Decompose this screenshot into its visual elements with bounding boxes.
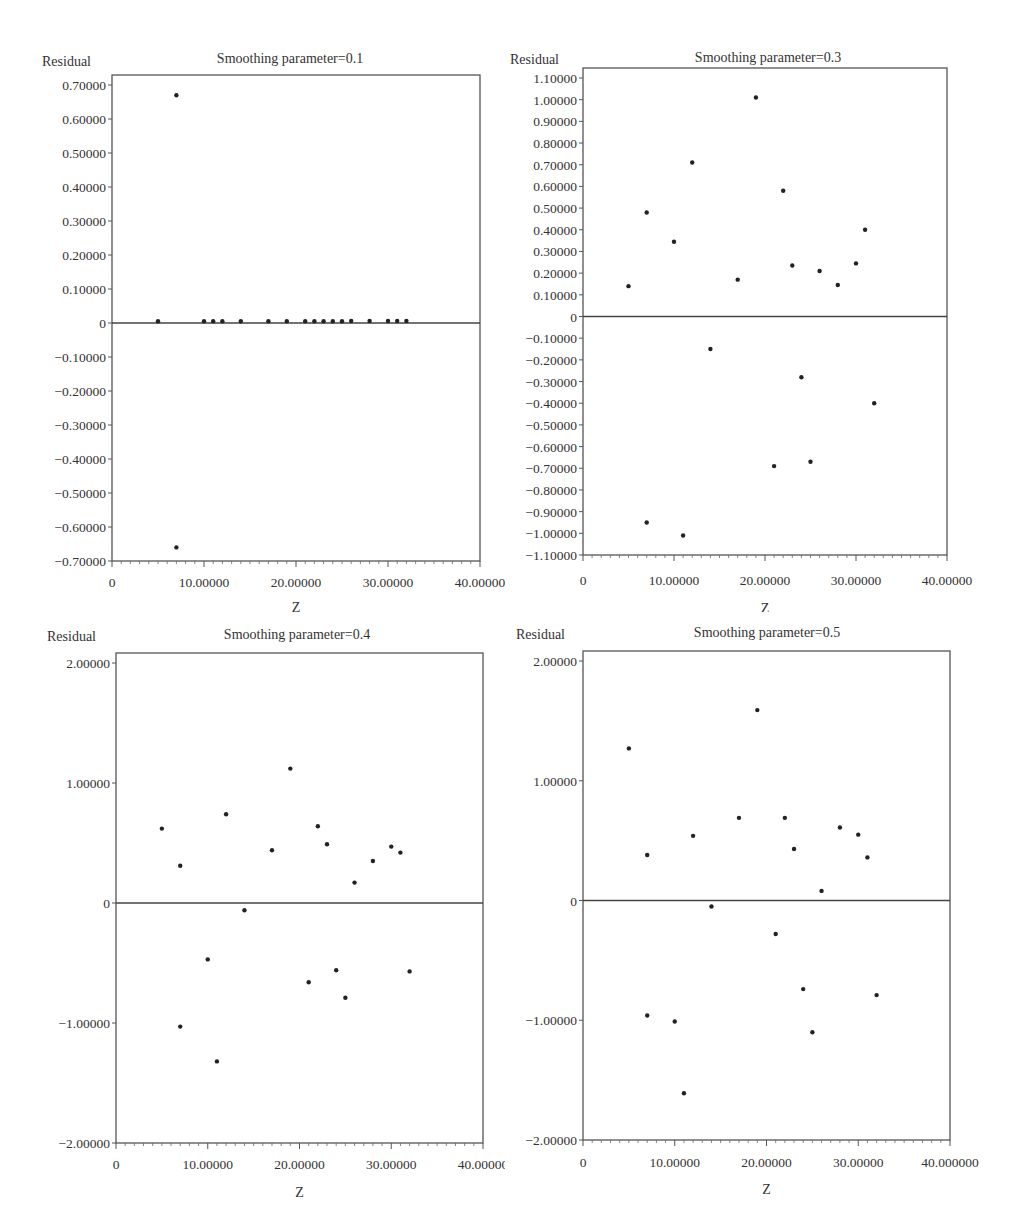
y-axis-label: Residual (42, 54, 91, 69)
y-tick-label: −2.00000 (59, 1136, 111, 1151)
data-point (645, 853, 649, 857)
x-axis-label: Z (295, 1185, 304, 1200)
y-tick-label: 0 (570, 310, 577, 325)
x-tick-label: 0 (580, 573, 587, 588)
data-point (645, 520, 649, 524)
data-point (672, 239, 676, 243)
data-point (772, 464, 776, 468)
data-point (404, 319, 408, 323)
plot-frame (112, 75, 480, 561)
data-point (343, 996, 347, 1000)
y-tick-label: 0.50000 (62, 146, 106, 161)
y-tick-label: −0.30000 (55, 418, 107, 433)
data-point (872, 401, 876, 405)
x-tick-label: 40.00000 (922, 573, 973, 588)
data-point (331, 319, 335, 323)
data-point (220, 319, 224, 323)
y-tick-label: −0.40000 (55, 452, 107, 467)
data-point (781, 189, 785, 193)
data-point (395, 319, 399, 323)
data-point (773, 932, 777, 936)
x-tick-label: 10.00000 (649, 1155, 700, 1170)
data-point (838, 825, 842, 829)
x-tick-label: 30.00000 (833, 1155, 884, 1170)
scatter-plot-smoothing-0-3: Smoothing parameter=0.3Residual1.100001.… (505, 0, 1009, 612)
y-tick-label: −0.60000 (55, 520, 107, 535)
data-point (215, 1059, 219, 1063)
data-point (340, 319, 344, 323)
y-tick-label: −0.80000 (526, 483, 578, 498)
data-point (156, 319, 160, 323)
x-tick-label: 20.00000 (740, 573, 791, 588)
data-point (792, 847, 796, 851)
data-point (352, 880, 356, 884)
y-tick-label: −0.40000 (526, 396, 578, 411)
y-tick-label: 0.50000 (533, 201, 577, 216)
x-tick-label: 10.00000 (179, 575, 230, 590)
data-point (691, 834, 695, 838)
data-point (836, 283, 840, 287)
plot-frame (583, 651, 950, 1140)
x-tick-label: 0 (113, 1157, 120, 1172)
data-point (407, 969, 411, 973)
data-point (206, 957, 210, 961)
x-tick-label: 20.00000 (741, 1155, 792, 1170)
data-point (242, 908, 246, 912)
data-point (306, 980, 310, 984)
y-tick-label: −1.00000 (526, 1013, 578, 1028)
y-tick-label: −1.00000 (526, 526, 578, 541)
plot-frame (116, 653, 483, 1143)
data-point (386, 319, 390, 323)
data-point (681, 533, 685, 537)
chart-title: Smoothing parameter=0.5 (694, 625, 840, 640)
data-point (863, 228, 867, 232)
x-axis-label: Z (761, 601, 770, 612)
x-tick-label: 40.00000 (458, 1157, 505, 1172)
data-point (627, 746, 631, 750)
data-point (736, 277, 740, 281)
y-tick-label: −1.10000 (526, 548, 578, 563)
x-axis-label: Z (292, 600, 301, 612)
data-point (178, 864, 182, 868)
data-point (810, 1030, 814, 1034)
data-point (790, 263, 794, 267)
x-tick-label: 0 (109, 575, 116, 590)
y-tick-label: 0 (99, 316, 106, 331)
data-point (754, 95, 758, 99)
data-point (334, 968, 338, 972)
y-tick-label: 0.70000 (533, 158, 577, 173)
y-axis-label: Residual (47, 629, 96, 644)
y-tick-label: −2.00000 (526, 1133, 578, 1148)
y-axis-label: Residual (510, 52, 559, 67)
data-point (266, 319, 270, 323)
data-point (856, 832, 860, 836)
data-point (645, 210, 649, 214)
data-point (174, 545, 178, 549)
data-point (239, 319, 243, 323)
data-point (270, 848, 274, 852)
x-tick-label: 20.00000 (271, 575, 322, 590)
panel-smoothing-0-4: Smoothing parameter=0.4Residual2.000001.… (0, 612, 505, 1223)
y-tick-label: −0.70000 (526, 461, 578, 476)
x-tick-label: 10.00000 (182, 1157, 233, 1172)
y-tick-label: 0.10000 (533, 288, 577, 303)
data-point (325, 842, 329, 846)
data-point (202, 319, 206, 323)
data-point (285, 319, 289, 323)
panel-smoothing-0-5: Smoothing parameter=0.5Residual2.000001.… (505, 612, 1009, 1223)
y-tick-label: −0.20000 (55, 384, 107, 399)
y-tick-label: 0.90000 (533, 114, 577, 129)
data-point (178, 1024, 182, 1028)
data-point (321, 319, 325, 323)
chart-title: Smoothing parameter=0.4 (224, 627, 370, 642)
y-tick-label: −0.10000 (55, 350, 107, 365)
y-tick-label: 1.10000 (533, 71, 577, 86)
y-tick-label: −0.50000 (55, 486, 107, 501)
data-point (737, 816, 741, 820)
data-point (819, 889, 823, 893)
data-point (367, 319, 371, 323)
x-tick-label: 30.00000 (831, 573, 882, 588)
data-point (316, 824, 320, 828)
y-tick-label: 0.60000 (62, 112, 106, 127)
x-tick-label: 20.00000 (274, 1157, 325, 1172)
